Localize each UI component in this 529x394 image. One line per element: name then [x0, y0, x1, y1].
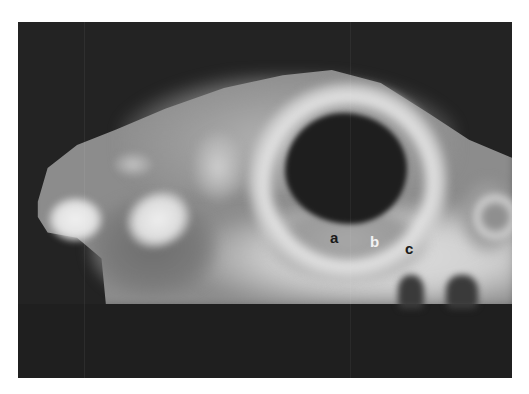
label-a: a	[330, 230, 338, 245]
anterior-tooth-density	[48, 197, 103, 242]
orbit-opening	[285, 113, 407, 224]
film-scratch	[350, 22, 351, 378]
label-b: b	[370, 234, 379, 249]
nasal-bone-highlight	[113, 152, 153, 177]
molar-root-shadow-2	[446, 275, 478, 309]
film-scratch	[84, 22, 85, 378]
maxilla-highlight	[193, 132, 243, 202]
base-shadow	[18, 304, 512, 378]
auditory-bulla	[473, 192, 512, 242]
molar-root-shadow-1	[398, 275, 424, 309]
radiograph-frame: a b c	[18, 22, 512, 378]
label-c: c	[405, 241, 413, 256]
